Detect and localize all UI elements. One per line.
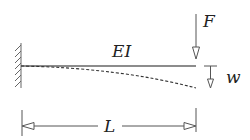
deflection-indicator bbox=[204, 66, 217, 88]
force-arrow bbox=[193, 14, 200, 59]
length-label: L bbox=[103, 116, 115, 136]
stiffness-label: EI bbox=[111, 41, 131, 61]
cantilever-beam-diagram: F EI w L bbox=[0, 0, 250, 140]
deflection-label: w bbox=[226, 67, 241, 87]
fixed-support-wall bbox=[15, 43, 21, 88]
force-label: F bbox=[202, 11, 216, 31]
deflection-curve bbox=[21, 66, 196, 88]
